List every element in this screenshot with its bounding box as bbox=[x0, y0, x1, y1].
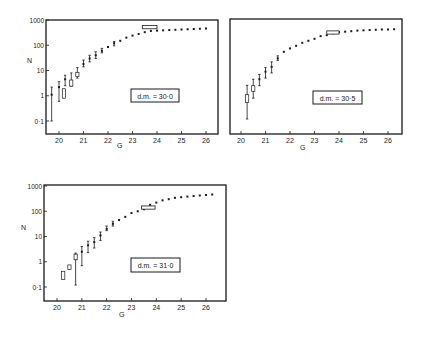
data-point bbox=[211, 194, 213, 196]
data-point bbox=[174, 29, 176, 31]
data-point bbox=[181, 29, 183, 31]
data-point bbox=[199, 28, 201, 30]
data-point bbox=[138, 33, 140, 35]
x-tick-label: 25 bbox=[360, 137, 368, 144]
data-box bbox=[74, 254, 77, 260]
plot-area: 20212223242526 bbox=[230, 19, 402, 144]
panel-dm-30-0: 202122232425260·11101001000 N G d.m. = 3… bbox=[27, 17, 218, 150]
data-point bbox=[107, 46, 109, 48]
x-tick-label: 24 bbox=[152, 304, 160, 311]
data-point bbox=[186, 196, 188, 198]
data-point bbox=[205, 194, 207, 196]
x-tick-label: 26 bbox=[202, 304, 210, 311]
x-tick-label: 24 bbox=[153, 137, 161, 144]
data-point bbox=[118, 219, 120, 221]
data-box bbox=[76, 72, 79, 76]
x-tick-label: 24 bbox=[335, 137, 343, 144]
x-tick-label: 20 bbox=[55, 137, 63, 144]
data-point bbox=[258, 78, 260, 80]
data-box bbox=[68, 265, 71, 269]
plot-frame bbox=[46, 20, 218, 134]
data-point bbox=[283, 51, 285, 53]
x-tick-label: 22 bbox=[104, 137, 112, 144]
plot-area: 202122232425260·11101001000 bbox=[28, 183, 226, 312]
data-point bbox=[314, 38, 316, 40]
completeness-bar bbox=[141, 206, 155, 209]
data-point bbox=[375, 29, 377, 31]
data-point bbox=[137, 210, 139, 212]
data-point bbox=[289, 47, 291, 49]
x-tick-label: 26 bbox=[202, 137, 210, 144]
data-point bbox=[150, 30, 152, 32]
plot-frame bbox=[44, 185, 226, 301]
data-point bbox=[119, 40, 121, 42]
data-box bbox=[62, 271, 65, 279]
data-box bbox=[246, 95, 249, 103]
y-tick-label: 1000 bbox=[30, 17, 45, 24]
x-tick-label: 25 bbox=[178, 137, 186, 144]
figure-canvas: 202122232425260·11101001000 N G d.m. = 3… bbox=[0, 0, 421, 337]
data-point bbox=[326, 34, 328, 36]
data-point bbox=[180, 196, 182, 198]
panel-dm-30-5: 20212223242526 G d.m. = 30·5 bbox=[230, 19, 402, 151]
y-tick-label: 100 bbox=[33, 42, 44, 49]
data-point bbox=[162, 29, 164, 31]
data-point bbox=[131, 212, 133, 214]
data-point bbox=[113, 42, 115, 44]
data-point bbox=[320, 35, 322, 37]
data-point bbox=[350, 30, 352, 32]
data-box bbox=[70, 80, 73, 86]
data-point bbox=[193, 28, 195, 30]
y-tick-label: 0·1 bbox=[33, 284, 43, 291]
y-axis-label: N bbox=[27, 57, 32, 64]
data-point bbox=[301, 42, 303, 44]
y-tick-label: 1000 bbox=[28, 183, 43, 190]
x-axis-label: G bbox=[117, 142, 122, 149]
data-point bbox=[132, 35, 134, 37]
data-point bbox=[95, 54, 97, 56]
y-tick-label: 1 bbox=[38, 258, 42, 265]
y-tick-label: 10 bbox=[35, 233, 43, 240]
data-point bbox=[369, 29, 371, 31]
panel-dm-31-0: 202122232425260·11101001000 N G d.m. = 3… bbox=[21, 183, 226, 319]
data-point bbox=[155, 202, 157, 204]
data-point bbox=[156, 30, 158, 32]
data-point bbox=[99, 234, 101, 236]
data-point bbox=[112, 223, 114, 225]
data-point bbox=[381, 29, 383, 31]
data-point bbox=[271, 66, 273, 68]
data-point bbox=[187, 28, 189, 30]
data-point bbox=[199, 195, 201, 197]
data-point bbox=[81, 251, 83, 253]
data-point bbox=[93, 241, 95, 243]
data-point bbox=[144, 31, 146, 33]
data-point bbox=[125, 37, 127, 39]
data-point bbox=[64, 78, 66, 80]
data-point bbox=[363, 29, 365, 31]
y-tick-label: 100 bbox=[31, 208, 42, 215]
x-tick-label: 21 bbox=[78, 304, 86, 311]
data-point bbox=[101, 50, 103, 52]
x-tick-label: 20 bbox=[237, 137, 245, 144]
x-axis-label: G bbox=[119, 311, 124, 318]
data-point bbox=[168, 29, 170, 31]
y-axis-label: N bbox=[21, 224, 26, 231]
x-tick-label: 21 bbox=[262, 137, 270, 144]
x-tick-label: 25 bbox=[177, 304, 185, 311]
dm-label: d.m. = 30·5 bbox=[320, 95, 356, 102]
y-tick-label: 1 bbox=[40, 92, 44, 99]
x-tick-label: 20 bbox=[53, 304, 61, 311]
data-box bbox=[252, 86, 255, 92]
dm-label: d.m. = 31·0 bbox=[138, 262, 174, 269]
legend-box: d.m. = 30·0 bbox=[131, 89, 179, 102]
data-point bbox=[205, 28, 207, 30]
plot-area: 202122232425260·11101001000 bbox=[30, 17, 218, 145]
data-point bbox=[106, 228, 108, 230]
x-tick-label: 22 bbox=[103, 304, 111, 311]
data-point bbox=[124, 216, 126, 218]
x-tick-label: 23 bbox=[311, 137, 319, 144]
dm-label: d.m. = 30·0 bbox=[137, 93, 173, 100]
data-point bbox=[162, 199, 164, 201]
data-point bbox=[51, 94, 53, 96]
data-point bbox=[83, 63, 85, 65]
